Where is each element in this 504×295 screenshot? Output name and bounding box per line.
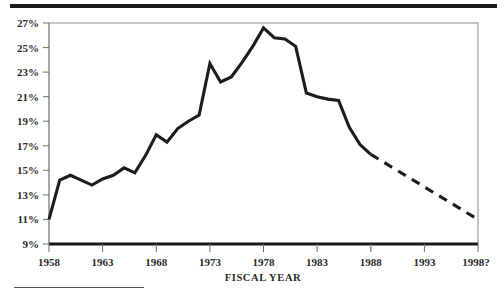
y-tick-label: 21% <box>17 91 39 103</box>
x-tick-label: 1973 <box>199 256 222 268</box>
y-tick-label: 23% <box>17 66 39 78</box>
x-tick-label: 1988 <box>360 256 383 268</box>
x-tick-label: 1968 <box>145 256 168 268</box>
x-tick-label: 1983 <box>306 256 329 268</box>
y-tick-label: 27% <box>17 17 39 29</box>
series-line-actual <box>49 28 371 220</box>
y-tick-labels: 27% 25% 23% 21% 19% 17% 15% 13% 11% 9% <box>17 17 39 250</box>
x-tick-label: 1993 <box>413 256 436 268</box>
series-line-projected <box>371 154 478 219</box>
y-tick-label: 15% <box>17 164 39 176</box>
y-axis: 27% 25% 23% 21% 19% 17% 15% 13% 11% 9% <box>17 17 49 250</box>
x-tick-label: 1978 <box>253 256 276 268</box>
data-series-group <box>49 28 478 220</box>
plot-border <box>49 23 478 244</box>
x-axis: 1958 1963 1968 1973 1978 1983 1988 1993 … <box>38 244 490 283</box>
y-tick-marks <box>43 23 49 244</box>
y-tick-label: 25% <box>17 42 39 54</box>
chart-figure: 27% 25% 23% 21% 19% 17% 15% 13% 11% 9% <box>0 0 504 295</box>
x-tick-label: 1963 <box>92 256 115 268</box>
x-tick-label: 1998? <box>462 256 490 268</box>
line-chart: 27% 25% 23% 21% 19% 17% 15% 13% 11% 9% <box>0 0 504 295</box>
y-tick-label: 11% <box>18 213 39 225</box>
bottom-divider-rule <box>14 287 144 288</box>
plot-area <box>49 23 478 244</box>
y-tick-label: 19% <box>17 115 39 127</box>
x-axis-title: FISCAL YEAR <box>225 272 302 283</box>
x-tick-labels: 1958 1963 1968 1973 1978 1983 1988 1993 … <box>38 256 490 268</box>
y-tick-label: 9% <box>23 238 40 250</box>
y-tick-label: 13% <box>17 189 39 201</box>
y-tick-label: 17% <box>17 140 39 152</box>
x-tick-label: 1958 <box>38 256 61 268</box>
